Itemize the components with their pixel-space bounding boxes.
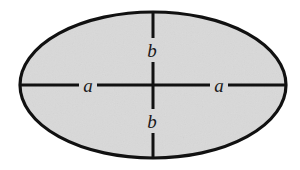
label-semi-axis-b-bottom: b [147,111,157,132]
ellipse-figure: a a b b [0,0,300,170]
label-semi-axis-a-left: a [83,75,93,96]
ellipse-diagram-svg: a a b b [0,0,300,170]
label-semi-axis-a-right: a [214,75,224,96]
label-semi-axis-b-top: b [147,40,157,61]
